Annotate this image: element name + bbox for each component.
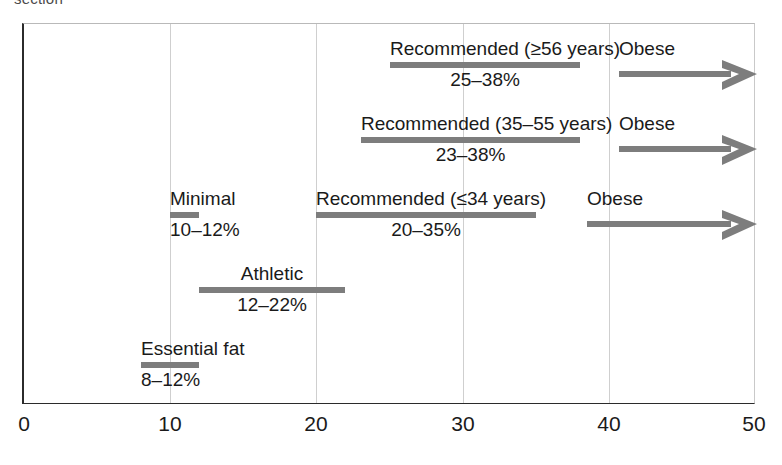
xtick-label: 20 bbox=[304, 412, 327, 436]
arrow-right-icon bbox=[587, 210, 759, 242]
xtick-label: 30 bbox=[451, 412, 474, 436]
range-label: Recommended (≥56 years) bbox=[390, 38, 580, 60]
range-value: 20–35% bbox=[316, 219, 536, 241]
xtick-label: 40 bbox=[597, 412, 620, 436]
range-label: Recommended (≤34 years) bbox=[316, 188, 536, 210]
range-bar bbox=[316, 212, 536, 218]
range-value: 8–12% bbox=[141, 369, 199, 391]
plot-area: Recommended (≥56 years) 25–38% Obese Rec… bbox=[22, 23, 755, 404]
obese-label: Obese bbox=[619, 38, 675, 60]
obese-arrow-icon bbox=[619, 135, 759, 171]
range-bar bbox=[170, 212, 199, 218]
clipped-caption-fragment: section bbox=[14, 0, 63, 11]
xtick-label: 0 bbox=[18, 412, 30, 436]
range-bar bbox=[199, 287, 345, 293]
range-group: Athletic 12–22% bbox=[199, 263, 345, 316]
range-label: Minimal bbox=[170, 188, 199, 210]
obese-label: Obese bbox=[619, 113, 675, 135]
range-group: Recommended (≤34 years) 20–35% bbox=[316, 188, 536, 241]
range-group: Recommended (≥56 years) 25–38% bbox=[390, 38, 580, 91]
obese-arrow-icon bbox=[619, 60, 759, 96]
xtick-label: 10 bbox=[158, 412, 181, 436]
range-label: Essential fat bbox=[141, 338, 199, 360]
range-value: 23–38% bbox=[361, 144, 580, 166]
obese-label: Obese bbox=[587, 188, 643, 210]
body-fat-ranges-chart: section Recommended (≥56 years) 25–38% O… bbox=[0, 0, 782, 465]
range-label: Athletic bbox=[199, 263, 345, 285]
range-value: 10–12% bbox=[170, 219, 199, 241]
range-value: 25–38% bbox=[390, 69, 580, 91]
arrow-right-icon bbox=[619, 60, 759, 92]
range-group: Recommended (35–55 years) 23–38% bbox=[361, 113, 580, 166]
range-group: Minimal 10–12% bbox=[170, 188, 199, 241]
obese-arrow-icon bbox=[587, 210, 759, 246]
range-bar bbox=[141, 362, 199, 368]
range-group: Essential fat 8–12% bbox=[141, 338, 199, 391]
xtick-label: 50 bbox=[742, 412, 765, 436]
arrow-right-icon bbox=[619, 135, 759, 167]
range-bar bbox=[390, 62, 580, 68]
range-label: Recommended (35–55 years) bbox=[361, 113, 580, 135]
clipped-caption-text: section bbox=[14, 0, 63, 6]
range-bar bbox=[361, 137, 580, 143]
range-value: 12–22% bbox=[199, 294, 345, 316]
